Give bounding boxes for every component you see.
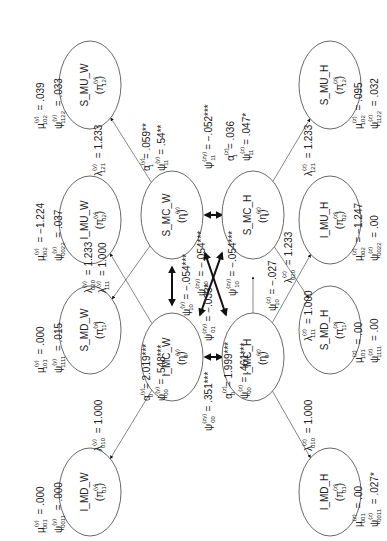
param-lambda-010-z: λ(z)010 = 1.000 xyxy=(301,399,316,451)
param-psi-0011-z: ψ(z)0011 = .027* xyxy=(367,472,382,527)
param-psi-11-zy: ψ(zy)11 = −.052*** xyxy=(201,104,216,169)
node-name: I_MU_H xyxy=(319,202,330,239)
param-psi-00-zy: ψ(zy)00 = .351*** xyxy=(201,372,216,431)
node-symbol: (π(y)11) xyxy=(92,321,107,339)
param-psi-11-z: ψ(z)11 = .047* xyxy=(239,113,254,161)
node-name: S_MC_H xyxy=(242,195,253,236)
param-mu-102-y: μ(y)102 = .039 xyxy=(33,82,48,129)
node-s-mu-h: S_MU_H(π(z)12) xyxy=(299,41,361,129)
param-alpha-0-z: α(z)0 = 1.999*** xyxy=(221,342,236,399)
node-s-md-w: S_MD_W(π(y)11) xyxy=(59,286,121,374)
param-lambda-121-y: λ(y)121 = 1.233 xyxy=(91,124,106,176)
param-lambda-111-y: λ(y)111 = 1.000 xyxy=(95,242,110,293)
node-symbol: (π(z)02) xyxy=(332,211,347,229)
param-lambda-121-z: λ(z)121 = 1.233 xyxy=(301,124,316,176)
node-symbol: (η(z)1) xyxy=(255,207,270,223)
param-mu-102-z: μ(z)102 = .095 xyxy=(351,82,366,129)
node-i-md-h: I_MD_H(π(z)01) xyxy=(299,448,361,536)
param-mu-002-y: μ(y)002 = −1.224 xyxy=(33,203,48,261)
node-symbol: (π(y)01) xyxy=(92,483,107,501)
param-mu-001-y: μ(y)001 = .000 xyxy=(33,486,48,533)
node-symbol: (π(z)12) xyxy=(332,76,347,94)
node-s-mc-w: S_MC_W(η(y)1) xyxy=(141,171,203,259)
node-name: S_MU_H xyxy=(319,65,330,106)
node-name: I_MD_H xyxy=(319,474,330,511)
node-name: I_MU_W xyxy=(79,200,90,239)
param-mu-001-z: μ(z)001 = .00 xyxy=(351,485,366,527)
param-psi-10-z: ψ(z)10 = −.027 xyxy=(265,260,280,311)
node-symbol: (η(y)0) xyxy=(174,349,189,365)
param-psi-1111-y: ψ(y)1111 = .015 xyxy=(51,323,66,373)
param-alpha-1-z: α(z)1 = .036 xyxy=(223,121,238,161)
param-alpha-1-y: α(y)1 = .059** xyxy=(139,123,154,171)
node-ellipse xyxy=(299,448,361,536)
node-i-md-w: I_MD_W(π(y)01) xyxy=(59,448,121,536)
edge-loading-s-md-w xyxy=(112,246,150,299)
node-ellipse xyxy=(59,41,121,129)
param-alpha-0-y: α(y)0 = 2.019*** xyxy=(139,344,154,401)
node-name: S_MU_W xyxy=(79,63,90,106)
node-symbol: (π(z)01) xyxy=(332,483,347,501)
param-lambda-020-y: λ(y)020 = 1.233 xyxy=(81,241,96,293)
param-psi-1111-z: ψ(z)1111 = .00 xyxy=(367,318,382,363)
node-s-mu-w: S_MU_W(π(y)12) xyxy=(59,41,121,129)
param-psi-1122-y: ψ(y)1122 = .033 xyxy=(51,78,66,129)
node-symbol: (η(z)0) xyxy=(255,349,270,365)
param-psi-10-zy-b: ψ(zy)10 = −.054*** xyxy=(225,231,240,296)
node-symbol: (π(y)12) xyxy=(92,76,107,94)
param-psi-01-zy: ψ(zy)01 = −.033* xyxy=(201,283,216,341)
param-psi-0011-y: ψ(y)0011 = .000 xyxy=(51,482,66,533)
path-diagram: S_MU_W(π(y)12)I_MU_W(π(y)02)S_MD_W(π(y)1… xyxy=(0,0,387,541)
node-ellipse xyxy=(59,286,121,374)
param-psi-0022-z: ψ(z)0022 = .00 xyxy=(367,215,382,261)
node-ellipse xyxy=(299,41,361,129)
rotated-layer: S_MU_W(π(y)12)I_MU_W(π(y)02)S_MD_W(π(y)1… xyxy=(33,41,382,536)
node-symbol: (π(y)02) xyxy=(92,211,107,229)
param-psi-10-y: ψ(y)10 = −.054*** xyxy=(179,254,194,316)
node-ellipse xyxy=(141,171,203,259)
param-lambda-010-y: λ(y)010 = 1.000 xyxy=(91,399,106,451)
node-ellipse xyxy=(59,448,121,536)
param-psi-11-y: ψ(y)11 = .54** xyxy=(154,124,169,171)
param-psi-1122-z: ψ(z)1122 = .032 xyxy=(367,78,382,129)
node-name: S_MC_W xyxy=(161,193,172,236)
node-symbol: (π(z)11) xyxy=(332,321,347,339)
node-name: I_MD_W xyxy=(79,472,90,511)
node-symbol: (η(y)1) xyxy=(174,207,189,223)
node-name: S_MD_H xyxy=(319,310,330,351)
param-lambda-020-z: λ(z)020 = 1.233 xyxy=(281,231,296,283)
param-psi-0022-y: ψ(y)0022 = .037 xyxy=(51,209,66,261)
param-mu-101-y: μ(y)101 = .000 xyxy=(33,326,48,373)
param-mu-002-z: μ(z)002 = −1.247 xyxy=(351,203,366,261)
diagram-canvas: S_MU_W(π(y)12)I_MU_W(π(y)02)S_MD_W(π(y)1… xyxy=(0,0,387,541)
param-mu-101-z: μ(z)101 = .00 xyxy=(351,321,366,363)
node-name: S_MD_W xyxy=(79,308,90,351)
